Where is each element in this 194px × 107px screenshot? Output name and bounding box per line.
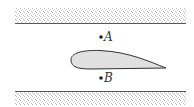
point-a-dot — [99, 35, 103, 39]
point-b: B — [99, 71, 113, 85]
bottom-wall — [15, 91, 186, 105]
top-wall-stipple — [15, 8, 186, 23]
airfoil-diagram: A B — [0, 0, 194, 107]
point-a: A — [99, 30, 113, 44]
point-a-label: A — [103, 30, 113, 44]
top-wall — [15, 8, 186, 24]
airfoil-shape — [71, 50, 166, 69]
point-b-dot — [99, 76, 103, 80]
point-b-label: B — [103, 71, 113, 85]
bottom-wall-stipple — [15, 91, 186, 105]
